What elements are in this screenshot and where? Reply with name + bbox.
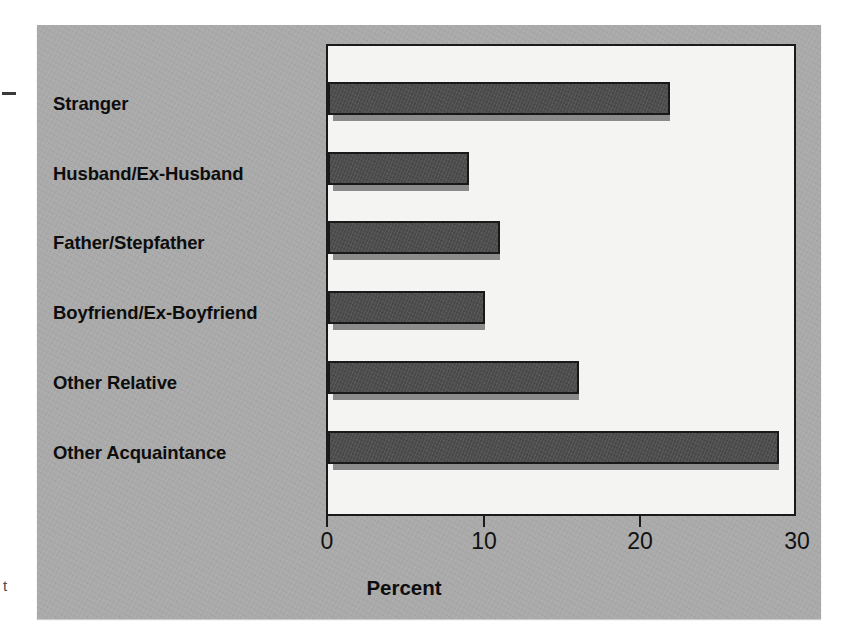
x-axis-title: Percent <box>37 576 821 600</box>
x-tick-label-10: 10 <box>454 528 514 555</box>
bar-body-other-relative <box>328 361 579 394</box>
x-tick-label-30: 30 <box>767 528 827 555</box>
plot-frame <box>326 44 796 516</box>
chart-figure-panel: Stranger Husband/Ex-Husband Father/Stepf… <box>37 25 821 619</box>
bar-body-other-acquaintance <box>328 431 779 464</box>
x-tick-mark-20 <box>639 516 641 527</box>
bar-body-boyfriend-ex-boyfriend <box>328 291 485 324</box>
x-tick-mark-10 <box>483 516 485 527</box>
x-tick-label-0: 0 <box>297 528 357 555</box>
plot-area <box>328 46 794 514</box>
category-axis-labels: Stranger Husband/Ex-Husband Father/Stepf… <box>53 44 325 516</box>
bar-body-husband-ex-husband <box>328 152 469 185</box>
category-label-boyfriend-ex-boyfriend: Boyfriend/Ex-Boyfriend <box>53 302 325 324</box>
x-tick-label-20: 20 <box>610 528 670 555</box>
category-label-husband-ex-husband: Husband/Ex-Husband <box>53 163 325 185</box>
bar-body-stranger <box>328 82 670 115</box>
category-label-other-acquaintance: Other Acquaintance <box>53 442 325 464</box>
category-label-stranger: Stranger <box>53 93 325 115</box>
bar-body-father-stepfather <box>328 221 500 254</box>
x-tick-mark-0 <box>326 516 328 527</box>
category-label-father-stepfather: Father/Stepfather <box>53 232 325 254</box>
scan-artifact-dash <box>2 92 16 95</box>
category-label-other-relative: Other Relative <box>53 372 325 394</box>
scan-artifact-letter: t <box>3 578 7 593</box>
